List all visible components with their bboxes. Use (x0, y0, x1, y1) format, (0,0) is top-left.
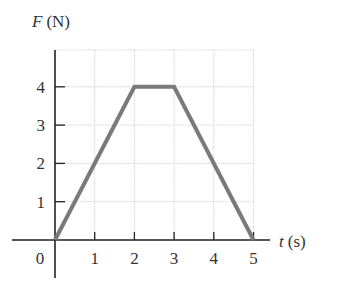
y-tick-label: 2 (37, 154, 46, 173)
force-time-graph: 0123451234 F(N) t(s) (0, 0, 337, 292)
x-tick-label: 2 (130, 249, 139, 268)
y-tick-label: 4 (37, 78, 46, 97)
axes (12, 50, 270, 278)
x-axis-label: t(s) (279, 232, 306, 251)
x-tick-label: 3 (170, 249, 179, 268)
grid (55, 50, 254, 240)
y-tick-label: 3 (37, 116, 46, 135)
y-tick-label: 1 (37, 193, 46, 212)
x-tick-label: 4 (210, 249, 219, 268)
y-axis-label: F(N) (31, 12, 70, 31)
x-tick-label: 5 (249, 249, 258, 268)
x-tick-label: 0 (36, 249, 45, 268)
axis-labels: F(N) t(s) (31, 12, 306, 251)
x-tick-label: 1 (90, 249, 99, 268)
